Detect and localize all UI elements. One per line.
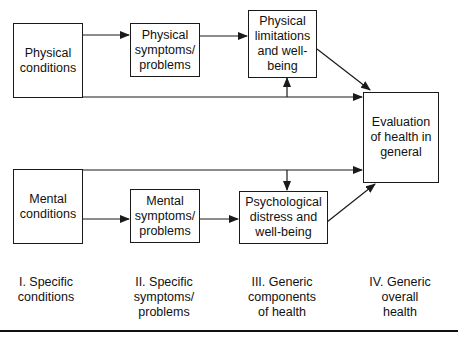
mental-symptoms-label: Mental symptoms/ problems — [135, 194, 195, 239]
level-4-label: IV. Generic overall health — [350, 275, 450, 320]
arrow-limitations-to-evaluation — [317, 49, 370, 90]
evaluation-label: Evaluation of health in general — [370, 115, 431, 160]
psychological-distress-box: Psychological distress and well-being — [239, 191, 328, 244]
physical-conditions-label: Physical conditions — [20, 46, 76, 76]
physical-symptoms-box: Physical symptoms/ problems — [130, 23, 200, 77]
level-2-label: II. Specific symptoms/ problems — [114, 275, 214, 320]
psychological-distress-label: Psychological distress and well-being — [245, 195, 321, 240]
physical-symptoms-label: Physical symptoms/ problems — [135, 28, 195, 73]
arrow-psychological-to-evaluation — [327, 184, 375, 222]
mental-conditions-box: Mental conditions — [13, 169, 83, 244]
level-1-label: I. Specific conditions — [0, 275, 96, 305]
physical-limitations-label: Physical limitations and well- being — [255, 14, 311, 74]
mental-symptoms-box: Mental symptoms/ problems — [130, 189, 200, 243]
physical-limitations-box: Physical limitations and well- being — [248, 10, 317, 78]
mental-conditions-label: Mental conditions — [20, 192, 76, 222]
physical-conditions-box: Physical conditions — [13, 23, 83, 98]
evaluation-box: Evaluation of health in general — [363, 92, 439, 183]
level-3-label: III. Generic components of health — [232, 275, 332, 320]
bottom-rule — [0, 330, 458, 332]
